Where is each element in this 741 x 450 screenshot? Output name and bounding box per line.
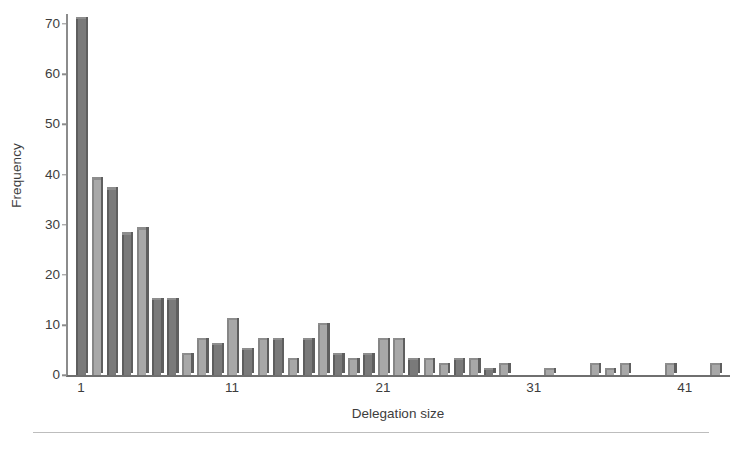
bar <box>92 180 101 376</box>
y-tick-mark <box>62 23 67 24</box>
bar <box>424 360 433 375</box>
bar-face <box>439 365 448 375</box>
bar <box>273 340 282 375</box>
bar-side <box>629 363 631 373</box>
bar <box>258 340 267 375</box>
bar-top <box>710 363 719 365</box>
bar-side <box>191 353 193 373</box>
y-tick-mark <box>62 124 67 125</box>
y-tick-mark <box>62 224 67 225</box>
bar-top <box>258 338 267 340</box>
bar-top <box>620 363 629 365</box>
bar-face <box>122 235 131 376</box>
bar-side <box>342 353 344 373</box>
bar-top <box>348 358 357 360</box>
bar-face <box>288 360 297 375</box>
y-tick-mark <box>62 274 67 275</box>
bar-side <box>372 353 374 373</box>
bar-top <box>303 338 312 340</box>
bar-side <box>297 358 299 373</box>
y-axis-label: Frequency <box>9 116 24 236</box>
y-tick-label: 60 <box>45 66 60 81</box>
bar-top <box>273 338 282 340</box>
bar-face <box>92 180 101 376</box>
bar <box>167 300 176 375</box>
bar-top <box>137 227 146 229</box>
bar <box>363 355 372 375</box>
bar-face <box>363 355 372 375</box>
bar <box>620 365 629 375</box>
bar-face <box>318 325 327 375</box>
bar <box>439 365 448 375</box>
bar-top <box>318 323 327 325</box>
bar-side <box>493 368 495 373</box>
bar-top <box>469 358 478 360</box>
bar-face <box>665 365 674 375</box>
bar-top <box>212 343 221 345</box>
bar <box>484 370 493 375</box>
bar <box>288 360 297 375</box>
bar-face <box>378 340 387 375</box>
bar-top <box>333 353 342 355</box>
bar <box>107 190 116 376</box>
bar <box>469 360 478 375</box>
bar-top <box>167 298 176 300</box>
bar-side <box>463 358 465 373</box>
bar-face <box>454 360 463 375</box>
bar-side <box>388 338 390 373</box>
bar-top <box>544 368 553 370</box>
bar-side <box>674 363 676 373</box>
bar-top <box>92 177 101 179</box>
y-tick-mark <box>62 174 67 175</box>
bar <box>710 365 719 375</box>
bar-face <box>469 360 478 375</box>
bar <box>393 340 402 375</box>
bar-face <box>273 340 282 375</box>
bar-side <box>237 318 239 373</box>
y-tick-label: 40 <box>45 167 60 182</box>
bar-face <box>620 365 629 375</box>
bar-face <box>242 350 251 375</box>
bar-face <box>544 370 553 375</box>
bar-side <box>720 363 722 373</box>
plot-area: 010203040506070 111213141 Delegation siz… <box>66 14 730 377</box>
bar-face <box>212 345 221 375</box>
bar-side <box>554 368 556 373</box>
bar-side <box>161 298 163 373</box>
bar-side <box>478 358 480 373</box>
bar-face <box>499 365 508 375</box>
x-tick-label: 1 <box>77 380 85 395</box>
bar-face <box>303 340 312 375</box>
bar-top <box>76 17 85 19</box>
bar-top <box>363 353 372 355</box>
y-tick-mark <box>62 375 67 376</box>
bar-side <box>101 177 103 373</box>
bar-top <box>484 368 493 370</box>
bar-top <box>499 363 508 365</box>
bar-side <box>252 348 254 373</box>
bar-top <box>590 363 599 365</box>
y-tick-label: 10 <box>45 317 60 332</box>
bar-top <box>182 353 191 355</box>
x-tick-label: 11 <box>225 380 239 395</box>
y-axis-line <box>66 14 68 377</box>
bar-top <box>227 318 236 320</box>
bar-side <box>116 187 118 373</box>
bar-side <box>312 338 314 373</box>
bar-face <box>605 370 614 375</box>
bar-side <box>508 363 510 373</box>
bar-face <box>76 19 85 375</box>
bar-top <box>107 187 116 189</box>
y-tick-mark <box>62 325 67 326</box>
bar <box>454 360 463 375</box>
bar-top <box>408 358 417 360</box>
bar <box>590 365 599 375</box>
bar <box>242 350 251 375</box>
y-tick-label: 0 <box>52 368 60 383</box>
bar-top <box>197 338 206 340</box>
bar-top <box>242 348 251 350</box>
bar <box>408 360 417 375</box>
bar-face <box>258 340 267 375</box>
bar-side <box>327 323 329 373</box>
bar <box>76 19 85 375</box>
